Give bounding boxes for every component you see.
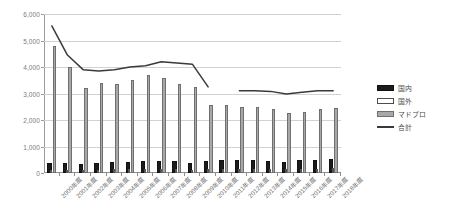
y-tick-label: 0	[36, 170, 44, 177]
bar-マドプロ	[178, 84, 181, 173]
legend-item-kokunai[interactable]: 国内	[377, 81, 447, 94]
bar-マドプロ	[147, 75, 150, 173]
bar-group	[247, 14, 263, 173]
bar-group	[232, 14, 248, 173]
bar-group	[75, 14, 91, 173]
y-tick-label: 3,000	[23, 90, 44, 97]
legend-swatch-madopro	[377, 111, 394, 117]
bar-group	[294, 14, 310, 173]
bar-マドプロ	[194, 87, 197, 173]
bar-マドプロ	[272, 109, 275, 173]
legend-swatch-kokunai	[377, 85, 394, 91]
bar-group	[325, 14, 341, 173]
chart-container: 01,0002,0003,0004,0005,0006,000 2000年度20…	[0, 0, 449, 214]
bar-マドプロ	[209, 105, 212, 173]
legend-item-kokugai[interactable]: 国外	[377, 94, 447, 107]
bar-マドプロ	[115, 84, 118, 173]
x-axis-labels: 2000年度2001年度2002年度2003年度2004年度2005年度2006…	[44, 175, 341, 214]
bar-マドプロ	[84, 88, 87, 173]
bar-group	[216, 14, 232, 173]
legend-swatch-kokugai	[377, 98, 394, 104]
bar-マドプロ	[131, 80, 134, 173]
bar-group	[263, 14, 279, 173]
bar-group	[138, 14, 154, 173]
legend-label-kokunai: 国内	[398, 83, 412, 93]
legend-label-goukei: 合計	[398, 122, 412, 132]
plot-area: 01,0002,0003,0004,0005,0006,000	[44, 14, 341, 173]
bar-group	[278, 14, 294, 173]
bar-group	[153, 14, 169, 173]
y-tick-label: 4,000	[23, 64, 44, 71]
legend-label-madopro: マドプロ	[398, 109, 426, 119]
bar-マドプロ	[162, 78, 165, 173]
y-tick-label: 5,000	[23, 37, 44, 44]
y-tick-label: 1,000	[23, 143, 44, 150]
bar-group	[169, 14, 185, 173]
bar-series-layer	[44, 14, 341, 173]
bar-マドプロ	[225, 105, 228, 173]
bar-group	[107, 14, 123, 173]
bar-group	[44, 14, 60, 173]
bar-group	[310, 14, 326, 173]
legend-label-kokugai: 国外	[398, 96, 412, 106]
bar-マドプロ	[100, 83, 103, 173]
bar-マドプロ	[334, 108, 337, 173]
bar-group	[200, 14, 216, 173]
legend-swatch-goukei	[377, 124, 394, 130]
bar-マドプロ	[240, 107, 243, 173]
bar-マドプロ	[319, 109, 322, 173]
bar-マドプロ	[53, 46, 56, 173]
bar-マドプロ	[256, 107, 259, 173]
y-tick-label: 2,000	[23, 117, 44, 124]
bar-マドプロ	[287, 113, 290, 173]
bar-group	[122, 14, 138, 173]
bar-group	[91, 14, 107, 173]
bar-マドプロ	[68, 67, 71, 173]
legend-item-goukei[interactable]: 合計	[377, 120, 447, 133]
bar-マドプロ	[303, 112, 306, 173]
legend-item-madopro[interactable]: マドプロ	[377, 107, 447, 120]
chart-legend: 国内国外マドプロ合計	[377, 81, 447, 133]
bar-group	[185, 14, 201, 173]
y-tick-label: 6,000	[23, 11, 44, 18]
bar-group	[60, 14, 76, 173]
